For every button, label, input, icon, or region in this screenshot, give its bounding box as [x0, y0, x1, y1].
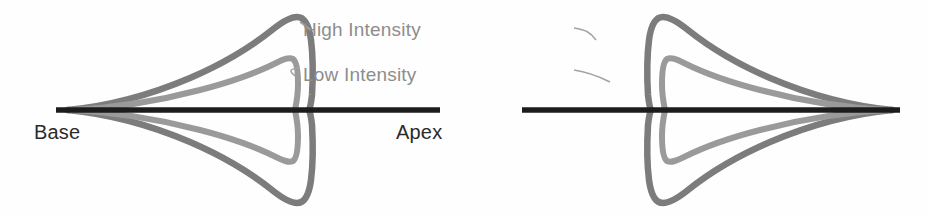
panel-right: Apex Base High Intensity Low Intensity [464, 0, 928, 216]
panel-right-plot [464, 0, 928, 216]
left-axis-label-apex: Apex [396, 122, 442, 142]
right-low-intensity-leader-line [574, 70, 610, 82]
left-series-label-low-intensity: Low Intensity [303, 65, 417, 84]
left-axis-label-base: Base [34, 122, 80, 142]
left-series-label-high-intensity: High Intensity [303, 20, 421, 39]
intensity-diagram-figure: Base Apex High Intensity Low Intensity A… [0, 0, 928, 216]
right-high-intensity-leader-line [574, 28, 596, 40]
panel-left: Base Apex High Intensity Low Intensity [0, 0, 464, 216]
